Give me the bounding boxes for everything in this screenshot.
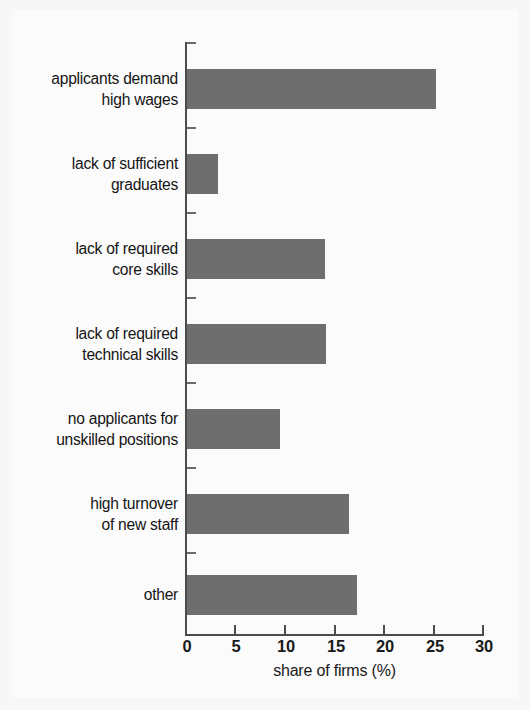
category-label-line: lack of required: [8, 323, 178, 344]
category-label-lack-of-required-core-skills: lack of required core skills: [8, 238, 178, 280]
category-label-line: unskilled positions: [8, 429, 178, 450]
x-axis-tick-label: 10: [266, 637, 306, 656]
category-label-line: high turnover: [8, 493, 178, 514]
x-axis-tick-label: 25: [415, 637, 455, 656]
category-label-line: applicants demand: [8, 68, 178, 89]
y-axis-tick: [187, 127, 196, 129]
category-label-line: high wages: [8, 89, 178, 110]
category-label-line: technical skills: [8, 344, 178, 365]
chart-page: applicants demand high wages lack of suf…: [0, 0, 530, 710]
x-axis-tick-label: 0: [167, 637, 207, 656]
x-axis-tick-label: 15: [316, 637, 356, 656]
bar-chart-figure: applicants demand high wages lack of suf…: [0, 0, 530, 710]
x-axis-tick-label: 20: [365, 637, 405, 656]
bar-no-applicants-for-unskilled-positions[interactable]: [187, 409, 280, 449]
category-label-line: lack of sufficient: [8, 153, 178, 174]
category-label-line: core skills: [8, 259, 178, 280]
x-axis-tick-label: 5: [216, 637, 256, 656]
x-axis-tick: [234, 625, 236, 635]
bar-lack-of-required-core-skills[interactable]: [187, 239, 325, 279]
category-label-lack-of-required-technical-skills: lack of required technical skills: [8, 323, 178, 365]
y-axis-tick: [187, 467, 196, 469]
category-label-no-applicants-for-unskilled-positions: no applicants for unskilled positions: [8, 408, 178, 450]
y-axis-tick: [187, 382, 196, 384]
bar-lack-of-sufficient-graduates[interactable]: [187, 154, 218, 194]
y-axis-tick: [187, 42, 196, 44]
category-label-line: no applicants for: [8, 408, 178, 429]
y-axis-tick: [187, 552, 196, 554]
x-axis-tick: [185, 625, 187, 635]
x-axis-tick: [482, 625, 484, 635]
bar-high-turnover-of-new-staff[interactable]: [187, 494, 349, 534]
y-axis-tick: [187, 297, 196, 299]
category-label-high-turnover-of-new-staff: high turnover of new staff: [8, 493, 178, 535]
bar-lack-of-required-technical-skills[interactable]: [187, 324, 326, 364]
category-label-line: graduates: [8, 174, 178, 195]
bar-other[interactable]: [187, 575, 357, 615]
category-label-line: other: [8, 584, 178, 605]
x-axis-title: share of firms (%): [185, 662, 484, 680]
bar-applicants-demand-high-wages[interactable]: [187, 69, 436, 109]
category-label-other: other: [8, 584, 178, 605]
x-axis-tick: [284, 625, 286, 635]
x-axis-tick: [383, 625, 385, 635]
category-label-lack-of-sufficient-graduates: lack of sufficient graduates: [8, 153, 178, 195]
x-axis-tick-label: 30: [464, 637, 504, 656]
y-axis-tick: [187, 212, 196, 214]
x-axis-tick: [334, 625, 336, 635]
category-label-applicants-demand-high-wages: applicants demand high wages: [8, 68, 178, 110]
x-axis-tick: [433, 625, 435, 635]
category-label-line: of new staff: [8, 514, 178, 535]
category-label-line: lack of required: [8, 238, 178, 259]
